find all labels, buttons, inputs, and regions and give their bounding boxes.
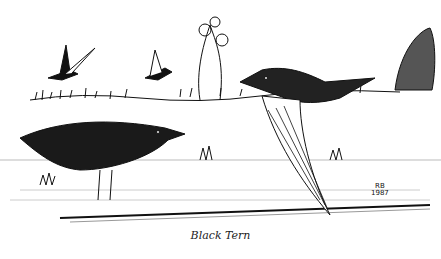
tern-distant-left <box>48 45 95 80</box>
caption: Black Tern <box>0 229 441 242</box>
tern-perched <box>20 122 185 200</box>
artist-signature: RB 1987 <box>371 183 389 197</box>
black-tern-illustration <box>0 0 441 259</box>
signature-year: 1987 <box>371 190 389 197</box>
tern-distant-middle <box>145 50 172 80</box>
